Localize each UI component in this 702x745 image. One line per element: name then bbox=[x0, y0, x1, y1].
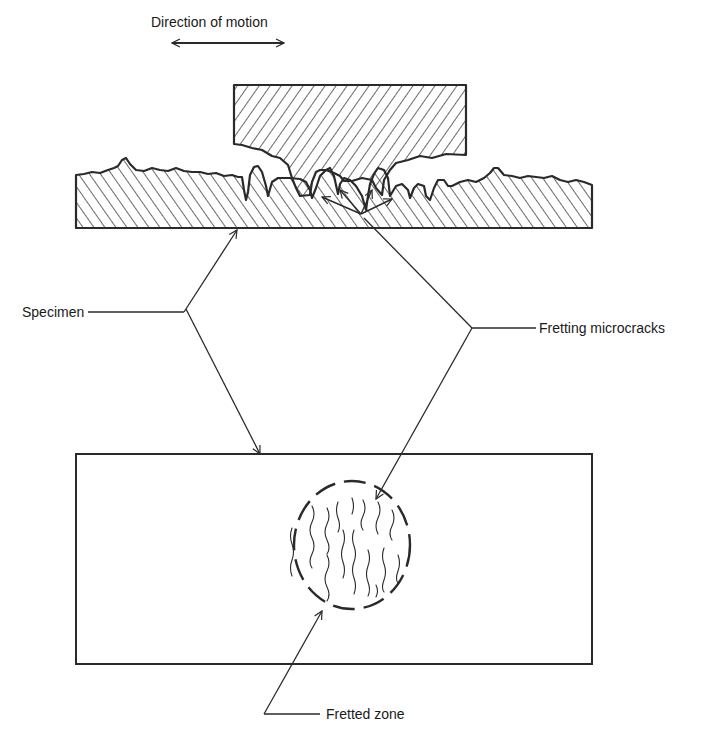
microcrack-lines bbox=[291, 498, 400, 601]
microcracks-leader bbox=[364, 218, 536, 499]
direction-of-motion-label: Direction of motion bbox=[151, 14, 268, 30]
specimen-label: Specimen bbox=[22, 304, 84, 320]
fretting-microcracks-label: Fretting microcracks bbox=[539, 320, 665, 336]
fretted-zone-leader bbox=[264, 611, 322, 714]
specimen-plan-view bbox=[76, 454, 592, 664]
fretted-zone-outline bbox=[294, 481, 410, 609]
fretting-diagram bbox=[0, 0, 702, 745]
specimen-leader bbox=[88, 230, 260, 454]
fretted-zone-label: Fretted zone bbox=[326, 706, 405, 722]
